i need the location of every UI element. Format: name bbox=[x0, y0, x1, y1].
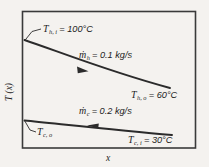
svg-text:Tc, o: Tc, o bbox=[37, 126, 52, 138]
x-axis-label: x bbox=[105, 153, 111, 163]
hot-inlet-subscript: h, i bbox=[49, 28, 57, 35]
hot-stream-arrowhead bbox=[77, 66, 89, 73]
hot-flow-label: ṁh= 0.1 kg/s bbox=[79, 49, 133, 61]
svg-text:Th, o= 60°C: Th, o= 60°C bbox=[131, 89, 178, 101]
cold-flow-symbol: ṁ bbox=[79, 105, 86, 116]
cold-inlet-value: = 30°C bbox=[144, 135, 173, 145]
cold-flow-subscript: c bbox=[87, 110, 90, 117]
cold-outlet-leader-line bbox=[25, 121, 36, 132]
hot-outlet-label: Th, o= 60°C bbox=[131, 89, 178, 101]
cold-inlet-subscript: c, i bbox=[134, 139, 142, 146]
svg-text:ṁh= 0.1 kg/s: ṁh= 0.1 kg/s bbox=[79, 49, 133, 61]
hot-inlet-label: Th, i= 100°C bbox=[43, 23, 93, 35]
cold-inlet-label: Tc, i= 30°C bbox=[128, 134, 173, 146]
heat-exchanger-temperature-diagram: T (x) x Th, i= 100°C ṁh= 0.1 kg/s bbox=[0, 0, 209, 167]
hot-flow-subscript: h bbox=[87, 54, 90, 61]
svg-text:Th, i= 100°C: Th, i= 100°C bbox=[43, 23, 93, 35]
hot-inlet-value: = 100°C bbox=[59, 24, 93, 34]
hot-outlet-value: = 60°C bbox=[149, 90, 178, 100]
cold-flow-label: ṁc= 0.2 kg/s bbox=[79, 105, 132, 117]
svg-text:Tc, i= 30°C: Tc, i= 30°C bbox=[128, 134, 173, 146]
hot-outlet-subscript: h, o bbox=[137, 94, 147, 101]
hot-flow-value: = 0.1 kg/s bbox=[92, 50, 132, 60]
hot-stream-curve bbox=[25, 40, 171, 88]
y-axis-label: T (x) bbox=[4, 83, 15, 101]
hot-flow-symbol: ṁ bbox=[79, 49, 86, 60]
cold-flow-value: = 0.2 kg/s bbox=[92, 106, 132, 116]
cold-outlet-subscript: c, o bbox=[43, 131, 52, 138]
cold-outlet-label: Tc, o bbox=[37, 126, 52, 138]
hot-inlet-leader-line bbox=[25, 29, 41, 41]
svg-text:ṁc= 0.2 kg/s: ṁc= 0.2 kg/s bbox=[79, 105, 132, 117]
